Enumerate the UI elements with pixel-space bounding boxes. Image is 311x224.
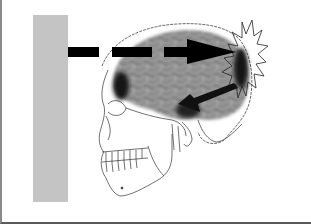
head-injury-illustration [2,0,311,224]
lower-teeth [102,158,148,172]
occipital [198,120,242,142]
arrow-dash-3 [164,47,190,57]
upper-teeth [102,148,148,163]
arrow-dash-2 [112,47,152,57]
coup-contusion [234,48,248,88]
skull-nasal [106,116,110,140]
mental-foramen [121,187,123,189]
diagram-frame [0,0,311,224]
arrow-dash-1 [68,47,99,57]
jaw-line [148,124,180,176]
mastoid [182,122,192,146]
contrecoup-contusion [113,72,129,100]
skull-orbit [108,101,126,116]
